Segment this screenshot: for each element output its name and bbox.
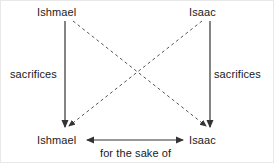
node-label-isaac-bottom: Isaac xyxy=(189,134,216,147)
edge-label-sacrifices-left: sacrifices xyxy=(10,68,57,81)
edge-diagonal-ishmael-to-isaac xyxy=(73,21,206,126)
node-label-ishmael-bottom: Ishmael xyxy=(37,134,76,147)
node-label-isaac-top: Isaac xyxy=(189,6,216,19)
edge-label-for-the-sake-of: for the sake of xyxy=(100,147,171,160)
node-label-ishmael-top: Ishmael xyxy=(37,6,76,19)
edge-label-sacrifices-right: sacrifices xyxy=(214,68,261,81)
edge-diagonal-isaac-to-ishmael xyxy=(69,21,202,126)
diagram-canvas: Ishmael Isaac Ishmael Isaac sacrifices s… xyxy=(0,0,274,163)
